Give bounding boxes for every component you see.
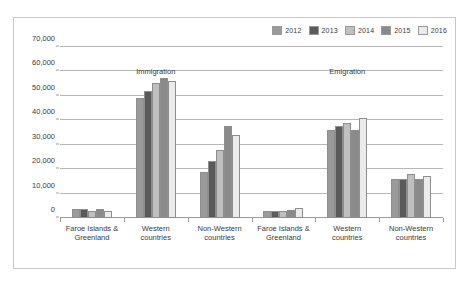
- legend-item-label: 2013: [322, 27, 338, 34]
- legend-item[interactable]: 2015: [381, 26, 410, 35]
- legend-item-label: 2012: [285, 27, 301, 34]
- section-title: Emigration: [329, 67, 365, 76]
- x-axis-tick: [188, 218, 189, 222]
- chart-legend: 20122013201420152016: [272, 26, 447, 35]
- legend-item-label: 2016: [431, 27, 447, 34]
- bar[interactable]: [279, 211, 287, 218]
- legend-item[interactable]: 2016: [418, 26, 447, 35]
- bar[interactable]: [96, 209, 104, 218]
- x-axis-tick: [379, 218, 380, 222]
- y-axis-tick: [56, 94, 59, 95]
- x-axis-tick: [315, 218, 316, 222]
- bar[interactable]: [287, 210, 295, 218]
- y-axis-tick-label: 30,000: [32, 131, 55, 140]
- bar[interactable]: [88, 211, 96, 218]
- y-axis-tick-label: 50,000: [32, 82, 55, 91]
- x-axis-category-label: Faroe Islands & Greenland: [58, 224, 126, 243]
- legend-item[interactable]: 2012: [272, 26, 301, 35]
- y-axis-tick-label: 10,000: [32, 180, 55, 189]
- bar[interactable]: [263, 211, 271, 218]
- x-axis-tick: [252, 218, 253, 222]
- y-axis-tick-label: 70,000: [32, 34, 55, 43]
- bar[interactable]: [200, 172, 208, 218]
- x-axis-tick: [60, 218, 61, 222]
- legend-swatch-icon: [345, 26, 355, 35]
- x-axis-category-label: Faroe Islands & Greenland: [249, 224, 317, 243]
- y-axis-tick: [56, 46, 59, 47]
- bar[interactable]: [232, 135, 240, 218]
- bar[interactable]: [351, 130, 359, 218]
- bar[interactable]: [136, 98, 144, 218]
- x-axis-tick: [443, 218, 444, 222]
- x-axis-tick: [124, 218, 125, 222]
- y-axis-tick: [56, 143, 59, 144]
- legend-item-label: 2014: [358, 27, 374, 34]
- y-axis-tick: [56, 192, 59, 193]
- x-axis-category-label: Western countries: [313, 224, 381, 243]
- y-axis-tick-label: 0: [51, 205, 55, 214]
- legend-swatch-icon: [381, 26, 391, 35]
- bar[interactable]: [80, 209, 88, 218]
- bar-group: Non-Western countries: [188, 47, 252, 218]
- bar[interactable]: [216, 150, 224, 218]
- section-title: Immigration: [136, 67, 175, 76]
- x-axis-category-label: Non-Western countries: [186, 224, 254, 243]
- y-axis-tick-label: 60,000: [32, 58, 55, 67]
- y-axis-tick-label: 20,000: [32, 156, 55, 165]
- bar[interactable]: [335, 126, 343, 218]
- x-axis-category-label: Western countries: [122, 224, 190, 243]
- bar-group: Faroe Islands & Greenland: [60, 47, 124, 218]
- bar[interactable]: [295, 208, 303, 218]
- y-axis-tick: [56, 70, 59, 71]
- bar[interactable]: [327, 130, 335, 218]
- y-axis-tick: [56, 217, 59, 218]
- legend-swatch-icon: [309, 26, 319, 35]
- bar-group: Faroe Islands & Greenland: [252, 47, 316, 218]
- bar[interactable]: [152, 83, 160, 218]
- bar[interactable]: [160, 78, 168, 218]
- bar[interactable]: [359, 118, 367, 218]
- bar[interactable]: [104, 211, 112, 218]
- bar[interactable]: [423, 176, 431, 218]
- plot-area: 010,00020,00030,00040,00050,00060,00070,…: [60, 47, 443, 218]
- x-axis-category-label: Non-Western countries: [377, 224, 445, 243]
- legend-swatch-icon: [418, 26, 428, 35]
- legend-item-label: 2015: [394, 27, 410, 34]
- bar[interactable]: [415, 179, 423, 218]
- chart-frame: 20122013201420152016 010,00020,00030,000…: [13, 17, 456, 269]
- bar[interactable]: [407, 174, 415, 218]
- legend-swatch-icon: [272, 26, 282, 35]
- bar-group: Non-Western countries: [379, 47, 443, 218]
- bar[interactable]: [224, 126, 232, 218]
- bar[interactable]: [271, 211, 279, 218]
- bar[interactable]: [168, 81, 176, 218]
- bar[interactable]: [391, 179, 399, 218]
- y-axis-tick: [56, 168, 59, 169]
- bar[interactable]: [399, 179, 407, 218]
- legend-item[interactable]: 2014: [345, 26, 374, 35]
- bar[interactable]: [144, 91, 152, 218]
- bar[interactable]: [343, 123, 351, 218]
- y-axis-tick: [56, 119, 59, 120]
- bar[interactable]: [208, 161, 216, 218]
- y-axis-tick-label: 40,000: [32, 107, 55, 116]
- legend-item[interactable]: 2013: [309, 26, 338, 35]
- bar[interactable]: [72, 209, 80, 218]
